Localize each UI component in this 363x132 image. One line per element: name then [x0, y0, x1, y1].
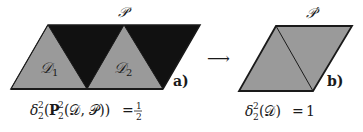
formula-b: δ 2 2 (𝒟) = 1 — [245, 101, 315, 122]
svg-text:2: 2 — [38, 111, 44, 121]
svg-text:(𝒟, 𝒫)): (𝒟, 𝒫)) — [64, 102, 110, 118]
arrow-icon: ⟶ — [207, 49, 230, 68]
svg-text:2: 2 — [58, 100, 64, 110]
svg-text:1: 1 — [306, 103, 315, 119]
svg-text:=: = — [292, 103, 304, 119]
formula-a: δ 2 2 ( P 2 2 (𝒟, 𝒫)) = 1 2 — [30, 100, 142, 122]
svg-text:2: 2 — [58, 111, 64, 121]
svg-text:(𝒟): (𝒟) — [259, 103, 281, 119]
label-p-prime: 𝒫′ — [306, 5, 320, 21]
figure: 𝒫 𝒟1 𝒟2 a) δ 2 2 ( P 2 2 (𝒟, 𝒫)) = 1 2 ⟶ — [0, 0, 363, 132]
svg-text:1: 1 — [136, 101, 142, 111]
panel-b: 𝒫′ b) δ 2 2 (𝒟) = 1 — [239, 5, 352, 122]
svg-text:2: 2 — [38, 100, 44, 110]
svg-text:2: 2 — [253, 112, 259, 122]
svg-text:2: 2 — [136, 112, 142, 122]
svg-text:2: 2 — [253, 101, 259, 111]
panel-a: 𝒫 𝒟1 𝒟2 a) δ 2 2 ( P 2 2 (𝒟, 𝒫)) = 1 2 — [11, 4, 200, 122]
panel-label-a: a) — [173, 73, 189, 89]
svg-text:=: = — [122, 102, 134, 118]
panel-label-b: b) — [327, 73, 343, 89]
label-p: 𝒫 — [118, 4, 132, 20]
